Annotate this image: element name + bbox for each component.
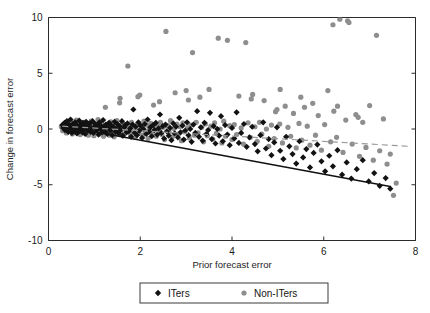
point-non-iters (280, 140, 285, 145)
point-non-iters (384, 162, 389, 167)
point-non-iters (367, 103, 372, 108)
point-iters (300, 154, 306, 160)
point-non-iters (343, 117, 348, 122)
point-iters (218, 113, 224, 119)
point-iters (354, 166, 360, 172)
point-iters (383, 175, 389, 181)
point-iters (289, 151, 295, 157)
point-non-iters (394, 180, 399, 185)
scatter-plot-figure: -10-5051002468Prior forecast errorChange… (0, 0, 430, 313)
point-non-iters (151, 102, 156, 107)
point-non-iters (262, 98, 267, 103)
point-non-iters (278, 87, 283, 92)
point-non-iters (357, 154, 362, 159)
point-non-iters (291, 111, 296, 116)
point-non-iters (269, 122, 274, 127)
point-non-iters (377, 148, 382, 153)
point-non-iters (302, 105, 307, 110)
x-axis-title: Prior forecast error (192, 259, 271, 270)
point-non-iters (294, 145, 299, 150)
point-non-iters (125, 63, 130, 68)
x-tick-label-8: 8 (413, 246, 419, 257)
point-iters (260, 119, 266, 125)
point-non-iters (388, 151, 393, 156)
x-tick-label-2: 2 (137, 246, 143, 257)
point-non-iters (325, 88, 330, 93)
point-non-iters (243, 40, 248, 45)
point-non-iters (334, 135, 339, 140)
point-iters (330, 163, 336, 169)
point-non-iters (264, 126, 269, 131)
point-non-iters (190, 50, 195, 55)
point-iters (236, 140, 242, 146)
y-tick-label--10: -10 (28, 235, 43, 246)
point-iters (130, 106, 136, 112)
point-non-iters (173, 90, 178, 95)
point-non-iters (356, 115, 361, 120)
point-non-iters (307, 143, 312, 148)
point-non-iters (363, 145, 368, 150)
legend-label-iters: ITers (168, 288, 190, 299)
point-non-iters (250, 92, 255, 97)
point-non-iters (135, 94, 140, 99)
point-iters (194, 108, 200, 114)
point-iters (334, 147, 340, 153)
point-iters (307, 164, 313, 170)
point-non-iters (296, 121, 301, 126)
point-non-iters (225, 38, 230, 43)
point-non-iters (249, 96, 254, 101)
y-tick-label-5: 5 (37, 68, 43, 79)
point-non-iters (381, 116, 386, 121)
point-non-iters (350, 141, 355, 146)
point-non-iters (184, 88, 189, 93)
point-iters (293, 160, 299, 166)
point-non-iters (313, 133, 318, 138)
point-iters (255, 148, 261, 154)
point-non-iters (236, 94, 241, 99)
point-non-iters (360, 120, 365, 125)
point-non-iters (298, 95, 303, 100)
point-non-iters (273, 109, 278, 114)
point-iters (286, 143, 292, 149)
x-tick-label-0: 0 (46, 246, 52, 257)
point-non-iters (206, 87, 211, 92)
point-iters (268, 152, 274, 158)
point-non-iters (391, 193, 396, 198)
y-tick-label-10: 10 (31, 12, 43, 23)
point-iters (280, 156, 286, 162)
point-non-iters (103, 105, 108, 110)
point-iters (227, 142, 233, 148)
point-non-iters (283, 104, 288, 109)
y-tick-label--5: -5 (34, 179, 43, 190)
point-non-iters (322, 122, 327, 127)
legend-marker-non-iters (241, 290, 246, 295)
point-non-iters (186, 97, 191, 102)
point-non-iters (310, 101, 315, 106)
point-non-iters (216, 36, 221, 41)
point-non-iters (285, 125, 290, 130)
point-non-iters (305, 124, 310, 129)
point-non-iters (197, 95, 202, 100)
point-non-iters (340, 150, 345, 155)
y-tick-label-0: 0 (37, 124, 43, 135)
point-non-iters (316, 113, 321, 118)
point-iters (207, 110, 213, 116)
point-iters (326, 153, 332, 159)
point-iters (271, 139, 277, 145)
point-iters (318, 158, 324, 164)
point-iters (277, 148, 283, 154)
point-non-iters (371, 158, 376, 163)
point-iters (371, 170, 377, 176)
point-non-iters (117, 100, 122, 105)
point-iters (233, 109, 239, 115)
point-iters (311, 150, 317, 156)
point-non-iters (345, 18, 350, 23)
x-tick-label-4: 4 (229, 246, 235, 257)
y-axis-title: Change in forecast error (4, 78, 15, 180)
x-tick-label-6: 6 (321, 246, 327, 257)
point-non-iters (163, 29, 168, 34)
point-non-iters (117, 96, 122, 101)
point-non-iters (331, 109, 336, 114)
point-non-iters (330, 22, 335, 27)
point-iters (344, 159, 350, 165)
